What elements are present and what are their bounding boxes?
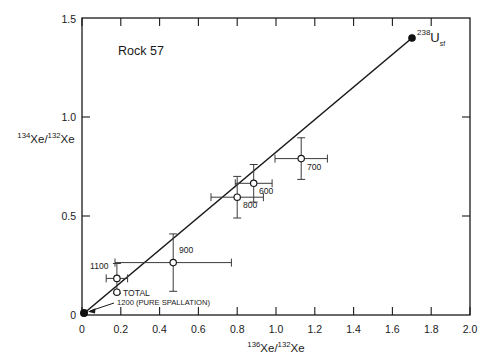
u238-label-sub: sf	[440, 40, 446, 47]
y-tick-label: 1.0	[61, 111, 76, 123]
data-point-1100: 1100	[90, 261, 128, 293]
data-marker	[251, 180, 257, 186]
data-marker	[114, 275, 120, 281]
x-tick-label: 1.4	[346, 323, 361, 335]
y-tick-label: 1.5	[61, 13, 76, 25]
x-tick-label: 0.8	[230, 323, 245, 335]
right-tick-marks	[462, 117, 470, 216]
y-tick-labels: 0 0.5 1.0 1.5	[61, 13, 76, 321]
data-point-label-800: 800	[243, 200, 258, 210]
data-point-label-1100: 1100	[90, 261, 109, 271]
x-tick-label: 1.2	[307, 323, 322, 335]
data-point-700: 700	[275, 138, 327, 180]
mixing-line	[82, 38, 412, 315]
x-axis-title-mid: Xe/	[260, 342, 278, 354]
x-tick-label: 2.0	[463, 323, 478, 335]
data-point-label-700: 700	[307, 162, 322, 172]
x-axis-title-end: Xe	[291, 342, 305, 354]
y-axis-title-end: Xe	[61, 133, 75, 145]
data-point-label-900: 900	[179, 245, 194, 255]
data-marker	[298, 155, 304, 161]
data-marker	[114, 289, 120, 295]
x-axis-title: 136Xe/132Xe	[247, 340, 304, 354]
data-point-label-600: 600	[259, 186, 274, 196]
data-marker	[234, 194, 240, 200]
x-tick-label: 0.6	[191, 323, 206, 335]
top-tick-marks	[82, 18, 431, 26]
y-tick-label: 0	[70, 309, 76, 321]
x-tick-label: 0.2	[113, 323, 128, 335]
u238-label-main: U	[430, 30, 439, 45]
x-tick-label: 1.8	[424, 323, 439, 335]
x-tick-label: 0	[79, 323, 85, 335]
x-axis-title-sup2: 132	[278, 340, 291, 349]
plot-title: Rock 57	[118, 44, 164, 58]
data-point-u238: 238Usf	[409, 28, 445, 47]
left-tick-marks	[82, 117, 90, 216]
xenon-isotope-chart: 0 0.2 0.4 0.6 0.8 1.0 1.2 1.4 1.6 1.8 2.…	[0, 0, 486, 358]
u238-label: 238Usf	[417, 28, 445, 47]
chart-svg: 0 0.2 0.4 0.6 0.8 1.0 1.2 1.4 1.6 1.8 2.…	[0, 0, 486, 358]
y-axis-title-sup1: 134	[17, 131, 31, 140]
y-axis-title-mid: Xe/	[30, 133, 48, 145]
data-marker	[81, 310, 88, 317]
data-point-900: 900	[115, 234, 231, 291]
data-point-label-total: TOTAL	[123, 288, 150, 298]
bottom-tick-marks	[82, 307, 470, 315]
y-axis-title: 134Xe/132Xe	[17, 131, 74, 145]
x-tick-label: 0.4	[152, 323, 167, 335]
plot-frame	[82, 18, 470, 315]
x-tick-label: 1.0	[269, 323, 284, 335]
data-point-total: TOTAL	[114, 288, 150, 298]
data-point-label-1200: 1200 (PURE SPALLATION)	[117, 298, 210, 307]
data-marker	[170, 259, 176, 265]
x-tick-labels: 0 0.2 0.4 0.6 0.8 1.0 1.2 1.4 1.6 1.8 2.…	[79, 323, 477, 335]
data-marker	[409, 35, 415, 41]
y-tick-label: 0.5	[61, 210, 76, 222]
x-tick-label: 1.6	[385, 323, 400, 335]
y-axis-title-sup2: 132	[48, 131, 61, 140]
u238-label-sup: 238	[417, 28, 431, 37]
x-axis-title-sup1: 136	[247, 340, 260, 349]
